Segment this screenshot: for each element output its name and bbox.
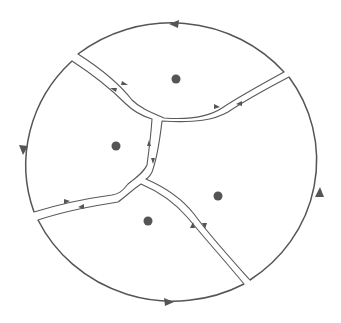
point-bottom-region (144, 217, 153, 226)
outer-arc-bottom (38, 220, 244, 301)
outer-arc-right (250, 77, 317, 280)
channel-arrow-upper-right-in-icon (214, 104, 220, 109)
point-left-region (112, 142, 121, 151)
channel-arrow-upper-left-in-icon (121, 81, 128, 85)
top-region-inner-edge (78, 54, 284, 119)
outer-arc-top (78, 23, 284, 72)
outer-arrow-top-left-icon (169, 20, 179, 28)
diagram-canvas (0, 0, 341, 323)
contour-diagram (0, 0, 341, 323)
point-top-region (172, 75, 181, 84)
outer-arrow-bottom-right-icon (164, 298, 174, 306)
point-right-region (214, 192, 223, 201)
outer-arc-left (26, 61, 72, 212)
outer-arrow-right-up-icon (315, 187, 324, 197)
bottom-region-inner-edge (38, 184, 244, 284)
